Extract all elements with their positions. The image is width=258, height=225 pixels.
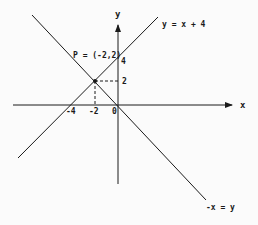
y-axis-label: y xyxy=(115,9,121,19)
line-neg-x-equals-y xyxy=(32,15,206,200)
tick-x-neg4: -4 xyxy=(66,107,76,116)
point-p-label: P = (-2,2) xyxy=(73,51,121,60)
x-axis-label: x xyxy=(240,100,246,110)
line-label-neg-x-equals-y: -x = y xyxy=(206,203,235,212)
tick-x-neg2: -2 xyxy=(89,107,99,116)
origin-label: 0 xyxy=(112,107,117,116)
tick-y-4: 4 xyxy=(121,57,126,66)
line-y-equals-x-plus-4 xyxy=(18,17,158,158)
line-label-y-equals-x-plus-4: y = x + 4 xyxy=(162,20,206,29)
tick-y-2: 2 xyxy=(122,77,127,86)
point-p xyxy=(93,79,97,83)
coordinate-plane: y x 0 -4 -2 2 4 P = (-2,2) y = x + 4 -x … xyxy=(0,0,258,225)
